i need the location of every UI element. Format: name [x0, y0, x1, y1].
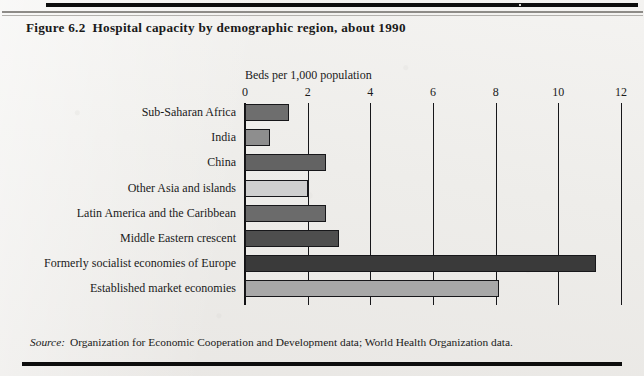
x-axis-title: Beds per 1,000 population — [245, 68, 372, 83]
bar-row: India — [0, 129, 644, 154]
x-tick-8: 8 — [493, 85, 499, 100]
bar-row: China — [0, 154, 644, 179]
bar — [245, 280, 499, 297]
source-note: Source:Organization for Economic Coopera… — [30, 336, 513, 348]
bar-row: Middle Eastern crescent — [0, 230, 644, 255]
figure-title-text: Hospital capacity by demographic region,… — [93, 20, 406, 35]
plot-area: Sub-Saharan AfricaIndiaChinaOther Asia a… — [0, 103, 644, 305]
bar — [245, 129, 270, 146]
bar-row: Other Asia and islands — [0, 180, 644, 205]
top-rule-thick — [46, 3, 638, 7]
bar — [245, 154, 326, 171]
bottom-rule-thick — [22, 362, 622, 366]
x-tick-0: 0 — [242, 85, 248, 100]
bar-row: Sub-Saharan Africa — [0, 104, 644, 129]
scan-speck — [519, 4, 521, 6]
category-label: India — [211, 130, 236, 145]
category-label: Sub-Saharan Africa — [142, 105, 236, 120]
bar — [245, 205, 326, 222]
figure-title: Figure 6.2Hospital capacity by demograph… — [26, 20, 406, 36]
chart: Beds per 1,000 population 024681012 Sub-… — [0, 60, 644, 310]
bar-row: Latin America and the Caribbean — [0, 205, 644, 230]
top-rule-hairline-2 — [2, 15, 643, 16]
bar — [245, 180, 308, 197]
x-tick-10: 10 — [552, 85, 564, 100]
category-label: Middle Eastern crescent — [120, 231, 236, 246]
x-tick-2: 2 — [305, 85, 311, 100]
bar — [245, 104, 289, 121]
x-tick-12: 12 — [615, 85, 627, 100]
category-label: Established market economies — [90, 281, 236, 296]
figure-number: Figure 6.2 — [26, 20, 86, 35]
bar-row: Formerly socialist economies of Europe — [0, 255, 644, 280]
x-tick-4: 4 — [367, 85, 373, 100]
bar — [245, 255, 596, 272]
category-label: Formerly socialist economies of Europe — [44, 256, 236, 271]
source-label: Source: — [30, 336, 65, 348]
category-label: China — [207, 155, 236, 170]
source-text: Organization for Economic Cooperation an… — [70, 336, 513, 348]
bar-row: Established market economies — [0, 280, 644, 305]
x-tick-6: 6 — [430, 85, 436, 100]
top-rule-hairline-1 — [2, 11, 643, 13]
category-label: Latin America and the Caribbean — [77, 206, 236, 221]
category-label: Other Asia and islands — [128, 181, 236, 196]
bar — [245, 230, 339, 247]
